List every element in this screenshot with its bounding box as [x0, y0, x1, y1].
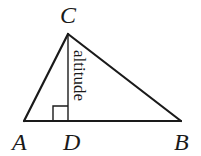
vertex-label-c: C	[60, 2, 77, 28]
right-angle-marker	[53, 106, 68, 121]
vertex-label-b: B	[174, 129, 189, 155]
triangle-diagram: C A D B altitude	[0, 0, 201, 156]
vertex-label-a: A	[10, 129, 27, 155]
vertex-label-d: D	[62, 129, 80, 155]
altitude-label: altitude	[70, 50, 89, 101]
side-ac	[24, 34, 68, 121]
